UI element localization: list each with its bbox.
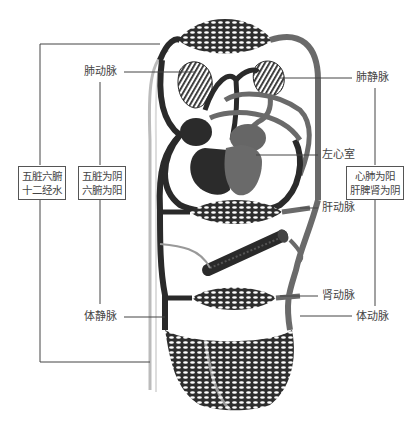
box-organs-meridians-line2: 十二经水 [22,183,62,197]
box-heart-lung-liver: 心肺为阳 肝脾肾为阴 [346,166,404,200]
box-heart-lung-liver-line2: 肝脾肾为阴 [350,183,400,197]
label-renal-artery: 肾动脉 [322,290,355,302]
label-systemic-artery: 体动脉 [356,311,389,323]
right-atrium [180,118,212,146]
box-organs-meridians-line1: 五脏六腑 [22,169,62,183]
label-systemic-vein: 体静脉 [84,311,117,323]
intestine [160,228,301,270]
box-organs-meridians: 五脏六腑 十二经水 [18,166,66,200]
box-heart-lung-liver-line1: 心肺为阳 [350,169,400,183]
box-zang-fu-yin-yang-line1: 五脏为阴 [82,169,122,183]
label-hepatic-artery: 肝动脉 [322,202,355,214]
box-zang-fu-yin-yang: 五脏为阴 六腑为阳 [78,166,126,200]
kidney-capillary-bed [163,288,300,311]
heart [180,118,266,195]
label-left-ventricle: 左心室 [322,149,355,161]
box-zang-fu-yin-yang-line2: 六腑为阳 [82,183,122,197]
right-lung [253,61,284,96]
lower-body-capillary-bed [165,330,294,410]
right-ventricle [190,148,230,195]
left-ventricle [225,145,263,195]
systemic-artery-trunk [288,200,318,330]
label-pulmonary-artery: 肺动脉 [84,66,117,78]
circulation-diagram [0,0,416,440]
label-pulmonary-vein: 肺静脉 [356,72,389,84]
